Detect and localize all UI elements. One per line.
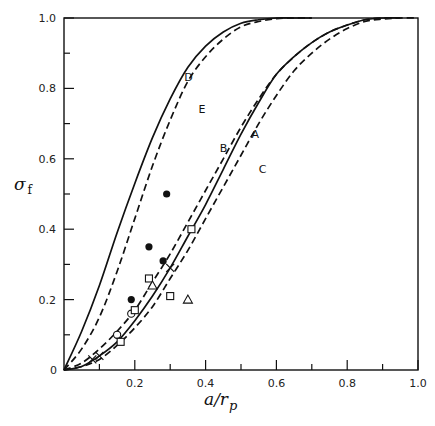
y-axis-title-sub: f [28, 183, 34, 197]
marker-filled-circle [160, 257, 167, 264]
marker-open-square [167, 293, 174, 300]
marker-filled-circle [128, 296, 135, 303]
curve-label-d: D [184, 71, 192, 84]
curves [64, 18, 418, 370]
curve-label-c: C [259, 163, 267, 176]
x-axis-title-sub: p [229, 398, 238, 413]
x-axis-title: a/rp [204, 389, 238, 413]
y-axis-title-main: σ [14, 174, 26, 194]
axis-ticks [64, 18, 418, 370]
curve-a [64, 18, 400, 370]
curve-label-a: A [252, 128, 260, 141]
plot-frame [64, 18, 418, 370]
marker-filled-circle [145, 243, 152, 250]
x-tick-label: 0.6 [268, 377, 286, 390]
tick-labels: 0.20.40.60.81.00.20.40.60.81.0 [39, 12, 427, 390]
y-axis-title: σf [14, 174, 34, 197]
marker-open-square [117, 338, 124, 345]
curve-label-e: E [199, 103, 206, 116]
y-tick-label: 0.6 [39, 153, 57, 166]
x-tick-label: 1.0 [409, 377, 427, 390]
chart-canvas: 0.20.40.60.81.00.20.40.60.81.0 DEBAC 0 a… [0, 0, 435, 426]
marker-open-square [145, 275, 152, 282]
y-tick-label: 1.0 [39, 12, 57, 25]
data-markers [88, 190, 195, 363]
curve-b [64, 18, 400, 370]
curve-label-b: B [220, 142, 228, 155]
marker-open-triangle [183, 295, 192, 303]
marker-open-square [188, 226, 195, 233]
y-tick-label: 0.4 [39, 223, 57, 236]
y-tick-label: 0.2 [39, 294, 57, 307]
curve-labels: DEBAC [184, 71, 266, 176]
x-tick-label: 0.8 [338, 377, 356, 390]
curve-c [64, 18, 418, 370]
y-tick-label: 0.8 [39, 82, 57, 95]
marker-open-circle [114, 331, 121, 338]
marker-filled-circle [163, 190, 170, 197]
marker-open-square [131, 307, 138, 314]
x-tick-label: 0.2 [126, 377, 144, 390]
x-axis-title-main: a/r [204, 389, 229, 409]
marker-cross [166, 264, 174, 272]
origin-label: 0 [50, 364, 57, 377]
